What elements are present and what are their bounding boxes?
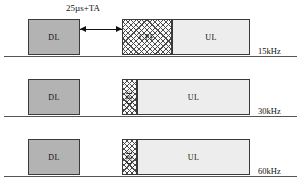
cpe-block-label: CPE — [138, 33, 156, 42]
arrow-head-left-icon — [80, 26, 86, 32]
dl-block: DL — [28, 79, 80, 115]
ul-block: UL — [137, 139, 250, 175]
subcarrier-spacing-label: 30kHz — [258, 106, 281, 116]
dl-block: DL — [28, 139, 80, 175]
cpe-block: CPE — [122, 79, 137, 115]
gap-duration-label: 25µs+TA — [66, 3, 100, 13]
arrow-head-right-icon — [116, 26, 122, 32]
row-baseline — [4, 116, 297, 117]
ul-block: UL — [172, 19, 250, 55]
dl-block-label: DL — [48, 33, 59, 42]
dl-block: DL — [28, 19, 80, 55]
timing-diagram: DLCPEUL15kHzDLCPEUL30kHzDLCPEUL60kHz25µs… — [0, 0, 305, 186]
dl-block-label: DL — [48, 93, 59, 102]
gap-arrow — [80, 23, 122, 35]
cpe-block-label: CPE — [125, 150, 135, 164]
cpe-block: CPE — [122, 19, 172, 55]
subcarrier-spacing-label: 60kHz — [258, 166, 281, 176]
cpe-block: CPE — [122, 139, 137, 175]
subcarrier-spacing-label: 15kHz — [258, 46, 281, 56]
cpe-block-label: CPE — [125, 90, 135, 104]
dl-block-label: DL — [48, 153, 59, 162]
row-baseline — [4, 176, 297, 177]
ul-block-label: UL — [188, 93, 199, 102]
ul-block-label: UL — [188, 153, 199, 162]
ul-block-label: UL — [205, 33, 216, 42]
row-baseline — [4, 56, 297, 57]
ul-block: UL — [137, 79, 250, 115]
